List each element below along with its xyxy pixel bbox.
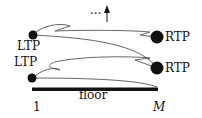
curve-lower-zigzag — [33, 57, 157, 78]
continuation-dots: ··· — [90, 7, 101, 21]
ltp-lower-label: LTP — [14, 55, 37, 69]
curve-upper-zigzag — [33, 24, 156, 37]
rtp-lower-label: RTP — [165, 61, 190, 75]
ltp-lower-dot — [28, 74, 37, 83]
ltp-rtp-diagram: ··· LTP LTP RTP RTP floor 1 M — [0, 0, 202, 118]
floor-label: floor — [79, 88, 107, 102]
ltp-upper-label: LTP — [17, 39, 40, 53]
rtp-upper-label: RTP — [165, 30, 190, 44]
right-index-label: M — [152, 100, 166, 114]
rtp-lower-dot — [151, 62, 164, 75]
left-index-label: 1 — [33, 100, 41, 114]
curve-lower-left-to-floor-right — [33, 78, 157, 87]
up-arrow-icon — [104, 5, 110, 13]
rtp-upper-dot — [151, 31, 164, 44]
